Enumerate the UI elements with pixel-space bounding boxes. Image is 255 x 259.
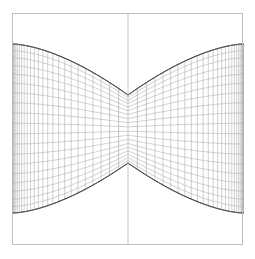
conformal-grid-figure bbox=[0, 0, 255, 259]
figure-root bbox=[0, 0, 255, 259]
